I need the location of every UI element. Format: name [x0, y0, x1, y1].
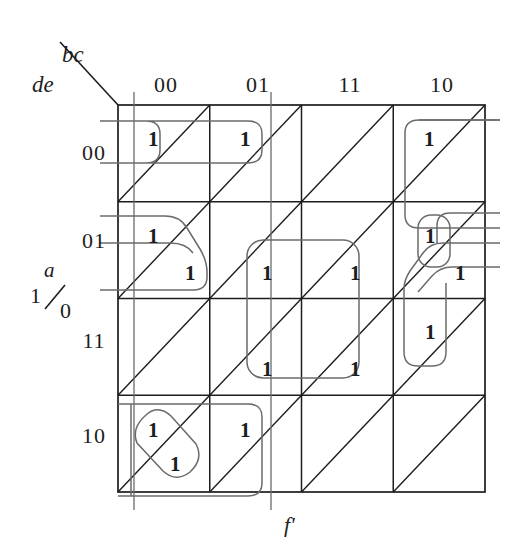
cell-01-00-lower: 1: [185, 261, 196, 286]
row-header-3: 10: [76, 423, 112, 449]
entered-variable-high: 1: [30, 283, 41, 309]
row-header-0: 00: [76, 140, 112, 166]
cell-11-01-lower: 1: [262, 357, 273, 382]
cell-11-11-lower: 1: [350, 357, 361, 382]
column-variable-label: bc: [62, 42, 84, 68]
row-header-1: 01: [76, 228, 112, 254]
cell-01-10-lower: 1: [455, 261, 466, 286]
row-variable-label: de: [32, 72, 54, 98]
cell-01-00-upper: 1: [148, 224, 159, 249]
cell-01-10-upper: 1: [425, 224, 436, 249]
cell-00-10-upper: 1: [424, 127, 435, 152]
function-label: f': [284, 512, 295, 538]
column-header-1: 01: [238, 72, 278, 98]
column-variable-indicators: [134, 92, 271, 510]
cell-00-00-upper: 1: [148, 127, 159, 152]
entered-variable-low: 0: [60, 298, 71, 324]
cell-11-10-upper: 1: [425, 320, 436, 345]
cell-01-01-lower: 1: [262, 261, 273, 286]
group-loop-top-left-pair: [100, 121, 262, 163]
cell-10-00-lower: 1: [170, 452, 181, 477]
cell-10-01-upper: 1: [240, 418, 251, 443]
group-loop-bottom-oval: [135, 410, 199, 478]
entered-variable-label: a: [44, 258, 55, 283]
column-header-0: 00: [146, 72, 186, 98]
cell-00-01-upper: 1: [240, 127, 251, 152]
cell-01-11-lower: 1: [350, 261, 361, 286]
column-header-3: 10: [422, 72, 462, 98]
row-header-2: 11: [76, 328, 112, 354]
karnaugh-map-diagram: bc de 00 01 11 10 00 01 11 10 a 1 0 f' 1…: [0, 0, 519, 552]
cell-10-00-upper: 1: [148, 418, 159, 443]
column-header-2: 11: [330, 72, 370, 98]
